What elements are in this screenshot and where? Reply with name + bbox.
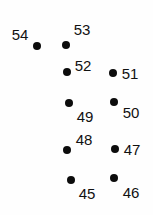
data-point-label: 46 — [123, 185, 139, 200]
data-point-label: 48 — [76, 132, 92, 147]
data-point-dot — [62, 41, 70, 49]
data-point-dot — [67, 176, 75, 184]
data-point-label: 50 — [123, 105, 139, 120]
data-point-label: 49 — [77, 109, 93, 124]
data-point-dot — [110, 98, 118, 106]
data-point-dot — [33, 42, 41, 50]
data-point-label: 51 — [122, 66, 138, 81]
data-point-dot — [111, 145, 119, 153]
data-point-dot — [109, 69, 117, 77]
data-point-dot — [63, 146, 71, 154]
data-point-dot — [63, 68, 71, 76]
data-point-dot — [110, 174, 118, 182]
data-point-label: 54 — [12, 27, 28, 42]
scatter-plot-canvas: 54535251495048474546 — [0, 0, 153, 215]
data-point-label: 53 — [74, 22, 90, 37]
data-point-label: 47 — [124, 142, 140, 157]
data-point-dot — [65, 99, 73, 107]
data-point-label: 52 — [75, 58, 91, 73]
data-point-label: 45 — [79, 186, 95, 201]
